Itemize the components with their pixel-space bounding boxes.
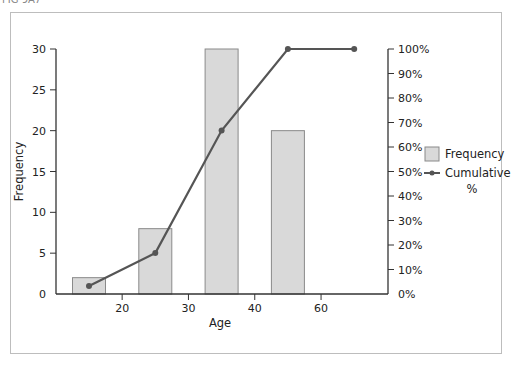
right-y-tick-label: 10% bbox=[398, 264, 422, 277]
cumulative-point bbox=[152, 250, 158, 256]
cumulative-point bbox=[219, 128, 225, 134]
y-axis-title: Frequency bbox=[12, 142, 26, 202]
right-y-tick-label: 50% bbox=[398, 166, 422, 179]
frequency-bar bbox=[271, 131, 304, 294]
x-tick-label: 40 bbox=[248, 302, 262, 315]
right-y-tick-label: 70% bbox=[398, 117, 422, 130]
left-y-tick-label: 5 bbox=[39, 247, 46, 260]
right-y-tick-label: 20% bbox=[398, 239, 422, 252]
legend-cumulative-label-percent: % bbox=[467, 182, 478, 196]
right-y-tick-label: 0% bbox=[398, 288, 415, 301]
legend-frequency-swatch bbox=[425, 147, 439, 161]
right-y-tick-label: 80% bbox=[398, 92, 422, 105]
pareto-chart: 0510152025300%10%20%30%40%50%60%70%80%90… bbox=[0, 0, 513, 367]
right-y-tick-label: 30% bbox=[398, 215, 422, 228]
right-y-tick-label: 90% bbox=[398, 68, 422, 81]
x-axis-title: Age bbox=[209, 316, 231, 330]
cumulative-point bbox=[86, 283, 92, 289]
left-y-tick-label: 25 bbox=[32, 84, 46, 97]
x-tick-label: 20 bbox=[115, 302, 129, 315]
legend-cumulative-label: Cumulative bbox=[445, 166, 511, 180]
frequency-bar bbox=[139, 229, 172, 294]
left-y-tick-label: 30 bbox=[32, 43, 46, 56]
right-y-tick-label: 40% bbox=[398, 190, 422, 203]
right-y-tick-label: 100% bbox=[398, 43, 429, 56]
left-y-tick-label: 15 bbox=[32, 166, 46, 179]
cumulative-point bbox=[351, 46, 357, 52]
left-y-tick-label: 10 bbox=[32, 206, 46, 219]
x-tick-label: 60 bbox=[314, 302, 328, 315]
cumulative-point bbox=[285, 46, 291, 52]
legend-cumulative-marker bbox=[430, 171, 435, 176]
left-y-tick-label: 20 bbox=[32, 125, 46, 138]
x-tick-label: 30 bbox=[181, 302, 195, 315]
right-y-tick-label: 60% bbox=[398, 141, 422, 154]
left-y-tick-label: 0 bbox=[39, 288, 46, 301]
frequency-bar bbox=[205, 49, 238, 294]
legend-frequency-label: Frequency bbox=[445, 147, 505, 161]
